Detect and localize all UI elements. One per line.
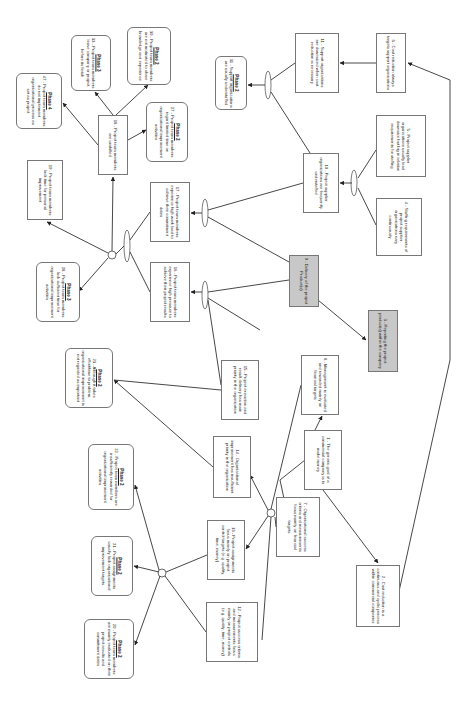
node-9: 9 - Delivery of the project Product(s) — [289, 255, 319, 307]
junction-top — [108, 251, 116, 259]
edge-top-28 — [79, 258, 108, 291]
node-6: 6 - Cost reduction always targets suppor… — [376, 33, 406, 93]
node-21-phase: Phase 2 — [117, 538, 122, 594]
edge-9-17 — [208, 217, 289, 262]
node-17: 17 - Project team members experience hig… — [150, 182, 190, 242]
node-31-phase: Phase 2 — [234, 58, 239, 108]
edge-9-16 — [208, 280, 289, 292]
node-30: Phase 230 - Project team members are not… — [127, 27, 171, 85]
node-12: 12 - Project success criteria and measur… — [206, 602, 258, 662]
node-30-text: 30 - Project team members are not motiva… — [139, 31, 154, 82]
node-47: Phase 447 - Project team members do not … — [16, 73, 62, 129]
edge-mid-8 — [271, 385, 301, 509]
edge-top-19 — [47, 222, 108, 253]
node-8-text: 8 - Management is evaluated and rewarded… — [312, 357, 328, 413]
edge-low-20 — [135, 576, 160, 645]
node-19: 19 - Project team members lack time for … — [27, 160, 63, 220]
node-23-phase: Phase 2 — [97, 350, 102, 406]
junction-low — [158, 569, 166, 577]
node-21-text: 21 - Project assignments usually lack or… — [102, 542, 117, 591]
edge-8-16 — [208, 298, 260, 330]
node-2: 2 - Cost reduction is a continuous and c… — [356, 565, 400, 627]
node-12-text: 12 - Project success criteria and measur… — [222, 604, 243, 660]
node-10-text: 10 - Project supplier organizations are … — [313, 155, 329, 211]
node-33-phase: Phase 3 — [96, 37, 101, 89]
edge-18-27 — [128, 130, 146, 140]
edge-mid-14 — [250, 475, 268, 510]
node-18: 18 - Project team members are unskilled — [98, 115, 128, 175]
node-4: 4 - Staffing requirements of project sup… — [376, 198, 422, 256]
edge-10-17 — [208, 183, 303, 210]
node-15: 15 - Project execution and result delive… — [221, 360, 259, 420]
edge-4-10 — [358, 188, 376, 225]
node-13-text: 13 - Project assignments focus mainly on… — [216, 522, 237, 578]
node-16-text: 16 - Project team members experience hig… — [162, 264, 178, 320]
diagram-canvas: 1 - The generic goal of a commercial com… — [0, 0, 456, 701]
node-18-text: 18 - Project team members are unskilled — [108, 117, 118, 173]
node-4-text: 4 - Staffing requirements of project sup… — [389, 200, 410, 254]
edge-17-top — [130, 212, 150, 240]
node-28: Phase 328 - Project team members lack su… — [36, 262, 80, 322]
node-27-text: 27 - Project team members regard limited… — [154, 106, 175, 157]
edge-15-16 — [208, 300, 221, 385]
junction-mid — [267, 509, 275, 517]
node-1-text: 1 - The generic goal of a commercial com… — [315, 432, 331, 488]
node-22-phase: Phase 2 — [119, 446, 124, 508]
edge-top-18 — [112, 177, 113, 251]
node-33: Phase 333 - Project team members leave c… — [71, 35, 111, 91]
node-20-phase: Phase 2 — [117, 621, 122, 677]
node-5-text: 5 - Project supplier organizations usual… — [391, 117, 412, 175]
edge-13-low — [166, 555, 207, 572]
node-11: 11 - Support organizations are downsized… — [295, 33, 339, 93]
node-10: 10 - Project supplier organizations are … — [303, 153, 339, 213]
edge-low-22 — [135, 485, 159, 570]
node-8: 8 - Management is evaluated and rewarded… — [301, 355, 339, 415]
node-5: 5 - Project supplier organizations usual… — [376, 115, 426, 177]
edge-16-top — [130, 252, 150, 292]
node-20-text: 20 - Project team members are mainly eva… — [96, 622, 117, 676]
edge-18-30 — [116, 85, 148, 115]
node-33-text: 33 - Project team members leave company … — [81, 38, 96, 89]
edge-10-31 — [271, 92, 310, 153]
edge-low-21 — [134, 566, 159, 572]
edge-11-31 — [271, 63, 295, 80]
edge-5-10 — [358, 150, 376, 178]
node-31: Phase 231 - Support organizations are us… — [215, 56, 247, 110]
edge-mid-13 — [246, 516, 268, 549]
node-31-text: 31 - Support organizations are usually u… — [223, 58, 233, 107]
node-7-text: 7 - Organizational success criteria and … — [288, 499, 309, 555]
node-21: Phase 221 - Project assignments usually … — [91, 536, 133, 596]
node-11-text: 11 - Support organizations are downsized… — [309, 35, 325, 91]
node-22: Phase 222 - Project team members are ins… — [88, 444, 134, 510]
edge-1-2 — [323, 490, 378, 563]
node-28-text: 28 - Project team members lack sufficien… — [45, 266, 66, 317]
node-22-text: 22 - Project team members are insufficie… — [98, 448, 119, 506]
edge-and-top — [116, 246, 124, 254]
edge-15-23 — [114, 380, 221, 390]
and-connector-top — [124, 230, 130, 262]
node-14-text: 14 - Organizational improvement has insu… — [224, 438, 240, 496]
node-20: Phase 220 - Project team members are mai… — [84, 619, 134, 679]
node-3-text: 3 - Reporting the project product(s) wit… — [378, 312, 388, 370]
node-30-phase: Phase 2 — [154, 29, 159, 83]
node-16: 16 - Project team members experience hig… — [150, 262, 190, 322]
and-connector-31 — [265, 71, 271, 99]
node-47-phase: Phase 4 — [47, 75, 52, 127]
edge-18-33 — [95, 92, 113, 115]
node-47-text: 47 - Project team members do not impleme… — [26, 76, 47, 127]
node-14: 14 - Organizational improvement has insu… — [213, 436, 251, 498]
node-15-text: 15 - Project execution and result delive… — [232, 362, 248, 418]
node-27: Phase 227 - Project team members regard … — [146, 102, 188, 162]
edge-18-47 — [63, 103, 98, 145]
node-17-text: 17 - Project team members experience hig… — [160, 184, 181, 240]
edge-mid-12 — [262, 517, 271, 640]
node-6-text: 6 - Cost reduction always targets suppor… — [386, 35, 396, 91]
node-27-phase: Phase 2 — [175, 104, 180, 160]
node-1: 1 - The generic goal of a commercial com… — [304, 430, 342, 490]
and-connector-16 — [202, 281, 208, 309]
node-13: 13 - Project assignments focus mainly on… — [207, 520, 245, 580]
edge-12-low — [165, 576, 206, 632]
node-23-text: 23 - Although it takes effort/time to pr… — [76, 350, 97, 406]
node-2-text: 2 - Cost reduction is a continuous and c… — [370, 567, 386, 625]
node-9-text: 9 - Delivery of the project Product(s) — [299, 257, 309, 305]
